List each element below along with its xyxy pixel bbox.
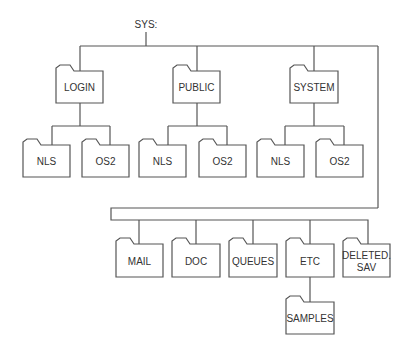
svg-text:ETC: ETC: [300, 256, 320, 267]
directory-tree-diagram: SYS: LOGIN: [0, 0, 415, 354]
svg-text:QUEUES: QUEUES: [232, 256, 275, 267]
folder-login[interactable]: LOGIN: [56, 65, 103, 103]
folder-queues[interactable]: QUEUES: [229, 238, 277, 277]
svg-text:OS2: OS2: [95, 156, 115, 167]
svg-text:PUBLIC: PUBLIC: [178, 82, 214, 93]
folder-etc[interactable]: ETC: [286, 238, 334, 277]
svg-text:MAIL: MAIL: [128, 256, 152, 267]
folder-public-os2[interactable]: OS2: [199, 139, 246, 177]
svg-text:NLS: NLS: [153, 156, 173, 167]
svg-text:NLS: NLS: [37, 156, 57, 167]
folder-samples[interactable]: SAMPLES: [286, 296, 334, 334]
folder-login-os2[interactable]: OS2: [82, 139, 129, 177]
svg-text:DELETED.: DELETED.: [342, 250, 391, 261]
folder-system-nls[interactable]: NLS: [257, 139, 304, 177]
folder-system[interactable]: SYSTEM: [290, 65, 338, 103]
svg-text:LOGIN: LOGIN: [64, 82, 95, 93]
folder-public-nls[interactable]: NLS: [139, 139, 186, 177]
root-label: SYS:: [135, 19, 158, 30]
svg-text:OS2: OS2: [212, 156, 232, 167]
svg-text:SYSTEM: SYSTEM: [293, 82, 334, 93]
folder-system-os2[interactable]: OS2: [316, 139, 363, 177]
folder-login-nls[interactable]: NLS: [23, 139, 70, 177]
folder-doc[interactable]: DOC: [172, 238, 220, 277]
svg-text:OS2: OS2: [329, 156, 349, 167]
folder-public[interactable]: PUBLIC: [173, 65, 220, 103]
folder-deleted-sav[interactable]: DELETED. SAV: [342, 238, 391, 277]
svg-text:SAMPLES: SAMPLES: [286, 313, 334, 324]
folder-mail[interactable]: MAIL: [116, 238, 163, 277]
svg-text:NLS: NLS: [271, 156, 291, 167]
svg-text:DOC: DOC: [185, 256, 207, 267]
svg-text:SAV: SAV: [357, 262, 377, 273]
